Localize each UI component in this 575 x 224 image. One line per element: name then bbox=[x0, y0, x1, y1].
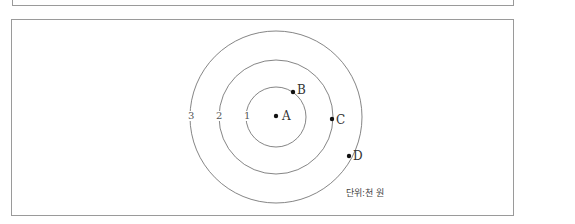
unit-label: 단위:천 원 bbox=[346, 186, 384, 199]
ring-label-3: 3 bbox=[187, 111, 195, 121]
point-b-label: B bbox=[297, 84, 306, 96]
ring-label-2: 2 bbox=[215, 111, 223, 121]
point-a-label: A bbox=[282, 110, 291, 122]
point-c-label: C bbox=[336, 114, 345, 126]
ring-label-1: 1 bbox=[243, 111, 251, 121]
point-d-label: D bbox=[353, 150, 363, 162]
